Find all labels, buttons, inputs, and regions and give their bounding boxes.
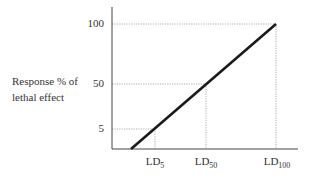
x-tick-ld100-base: LD <box>264 155 279 167</box>
y-tick-5: 5 <box>74 122 104 134</box>
y-axis-label: Response % of lethal effect <box>12 73 78 105</box>
x-tick-ld100-sub: 100 <box>278 161 290 170</box>
x-tick-ld50: LD50 <box>184 155 228 170</box>
y-axis-label-line-2: lethal effect <box>12 89 78 105</box>
x-tick-ld50-sub: 50 <box>209 161 217 170</box>
x-tick-ld5: LD5 <box>133 155 177 170</box>
x-tick-ld5-base: LD <box>146 155 161 167</box>
x-tick-ld100: LD100 <box>255 155 299 170</box>
x-tick-ld5-sub: 5 <box>160 161 164 170</box>
y-tick-50: 50 <box>74 77 104 89</box>
y-tick-100: 100 <box>74 17 104 29</box>
dose-response-line <box>131 24 276 149</box>
x-tick-ld50-base: LD <box>195 155 210 167</box>
y-axis-label-line-1: Response % of <box>12 73 78 89</box>
